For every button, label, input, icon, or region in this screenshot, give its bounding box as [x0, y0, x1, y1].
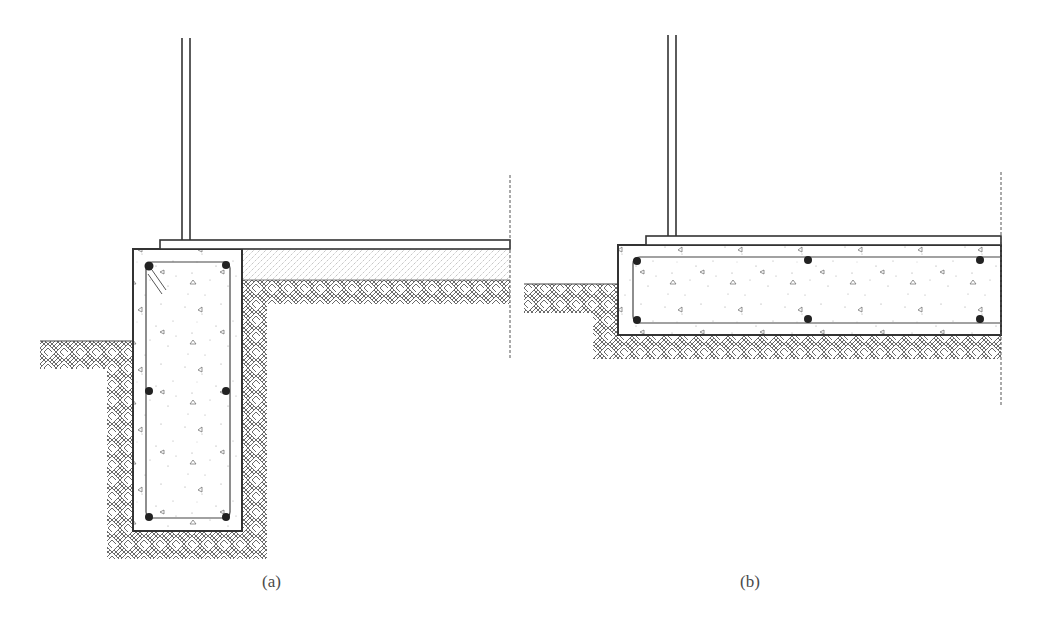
- foundation-detail-diagram: [0, 0, 1037, 623]
- gravel-fill-a: [242, 249, 510, 280]
- rebar-icon: [633, 257, 641, 265]
- rebar-icon: [804, 315, 812, 323]
- rebar-icon: [804, 256, 812, 264]
- panel-b: [524, 35, 1001, 405]
- panel-a: [40, 38, 510, 559]
- caption-b: (b): [740, 572, 760, 592]
- caption-a: (a): [262, 572, 281, 592]
- rebar-icon: [145, 513, 153, 521]
- rebar-icon: [222, 261, 230, 269]
- rebar-icon: [145, 262, 154, 271]
- wall-a: [182, 38, 190, 240]
- wall-b: [668, 35, 676, 236]
- rebar-icon: [976, 315, 984, 323]
- soil-right-a: [242, 280, 510, 559]
- soil-bottom-b: [593, 335, 1001, 359]
- soil-left-a: [40, 341, 133, 559]
- rebar-icon: [633, 316, 641, 324]
- slab-topping-b: [646, 236, 1001, 245]
- slab-a: [160, 240, 510, 249]
- rebar-icon: [145, 387, 153, 395]
- rebar-icon: [976, 256, 984, 264]
- rebar-icon: [222, 387, 230, 395]
- rebar-icon: [222, 513, 230, 521]
